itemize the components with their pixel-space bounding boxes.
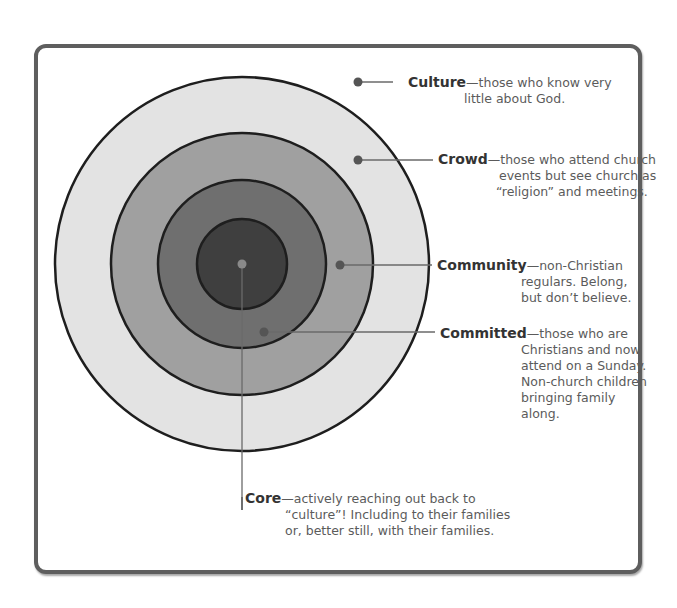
label-culture: Culture—those who know very little about… (408, 74, 612, 107)
committed-desc-line-2: Christians and now (440, 342, 647, 358)
culture-dot-icon (354, 78, 363, 87)
community-dash: — (527, 258, 540, 273)
label-core: Core—actively reaching out back to “cult… (245, 490, 510, 539)
community-desc-line-1: non-Christian (539, 258, 623, 273)
core-desc-line-2: “culture”! Including to their families (245, 507, 510, 523)
culture-desc-line-1: those who know very (479, 75, 612, 90)
crowd-desc-line-3: “religion” and meetings. (438, 184, 656, 200)
core-dot-icon (238, 260, 247, 269)
crowd-term: Crowd (438, 151, 488, 167)
community-dot-icon (336, 261, 345, 270)
community-term: Community (437, 257, 527, 273)
committed-desc-line-1: those who are (539, 326, 628, 341)
committed-dash: — (527, 326, 540, 341)
culture-term: Culture (408, 74, 466, 90)
crowd-desc-line-2: events but see church as (438, 168, 656, 184)
committed-desc-line-5: bringing family (440, 390, 647, 406)
committed-dot-icon (260, 328, 269, 337)
core-desc-line-1: actively reaching out back to (294, 491, 476, 506)
committed-desc-line-4: Non-church children (440, 374, 647, 390)
committed-term: Committed (440, 325, 527, 341)
crowd-dot-icon (354, 156, 363, 165)
community-desc-line-2: regulars. Belong, (437, 274, 631, 290)
core-dash: — (281, 491, 294, 506)
core-desc-line-3: or, better still, with their families. (245, 523, 510, 539)
crowd-dash: — (488, 152, 501, 167)
community-desc-line-3: but don’t believe. (437, 290, 631, 306)
label-crowd: Crowd—those who attend church events but… (438, 151, 656, 200)
crowd-desc-line-1: those who attend church (500, 152, 656, 167)
culture-dash: — (466, 75, 479, 90)
label-committed: Committed—those who are Christians and n… (440, 325, 647, 422)
committed-desc-line-3: attend on a Sunday. (440, 358, 647, 374)
culture-desc-line-2: little about God. (408, 91, 612, 107)
committed-desc-line-6: along. (440, 406, 647, 422)
label-community: Community—non-Christian regulars. Belong… (437, 257, 631, 306)
core-term: Core (245, 490, 281, 506)
